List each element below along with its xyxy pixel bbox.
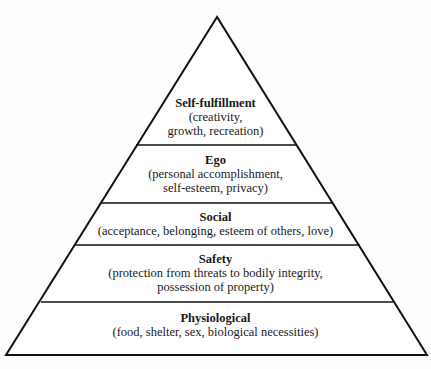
layer-description: possession of property) bbox=[0, 280, 431, 294]
layer-self-fulfillment: Self-fulfillment (creativity, growth, re… bbox=[0, 96, 431, 138]
layer-safety: Safety (protection from threats to bodil… bbox=[0, 252, 431, 294]
layer-description: growth, recreation) bbox=[0, 124, 431, 138]
layer-physiological: Physiological (food, shelter, sex, biolo… bbox=[0, 311, 431, 339]
layer-title: Ego bbox=[0, 153, 431, 167]
layer-ego: Ego (personal accomplishment, self-estee… bbox=[0, 153, 431, 195]
layer-title: Self-fulfillment bbox=[0, 96, 431, 110]
layer-title: Physiological bbox=[0, 311, 431, 325]
layer-title: Social bbox=[0, 210, 431, 224]
layer-description: (personal accomplishment, bbox=[0, 167, 431, 181]
layer-social: Social (acceptance, belonging, esteem of… bbox=[0, 210, 431, 238]
layer-description: (acceptance, belonging, esteem of others… bbox=[0, 224, 431, 238]
layer-title: Safety bbox=[0, 252, 431, 266]
layer-description: (creativity, bbox=[0, 110, 431, 124]
layer-description: (food, shelter, sex, biological necessit… bbox=[0, 325, 431, 339]
layer-description: (protection from threats to bodily integ… bbox=[0, 266, 431, 280]
layer-description: self-esteem, privacy) bbox=[0, 181, 431, 195]
